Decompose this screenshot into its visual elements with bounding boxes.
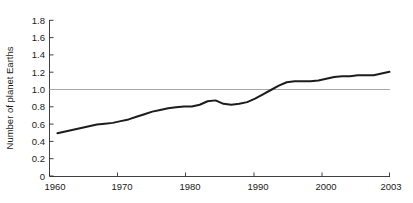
y-tick-label: 0 bbox=[40, 171, 45, 182]
y-tick-label: 1.8 bbox=[32, 15, 45, 26]
x-axis-tick-labels: 1960 1970 1980 1990 2000 2003 bbox=[44, 181, 401, 192]
y-tick-label: 1.2 bbox=[32, 67, 45, 78]
x-tick-label: 1980 bbox=[179, 181, 200, 192]
y-tick-label: 1.0 bbox=[32, 84, 45, 95]
x-tick-label: 2000 bbox=[315, 181, 336, 192]
x-tick-label: 1960 bbox=[44, 181, 65, 192]
x-tick-label: 2003 bbox=[380, 181, 401, 192]
y-tick-label: 0.4 bbox=[32, 136, 45, 147]
chart-container: 0 0.2 0.4 0.6 0.8 1.0 1.2 1.4 1.6 1.8 19… bbox=[0, 0, 413, 203]
y-axis-title: Number of planet Earths bbox=[4, 46, 15, 149]
x-tick-label: 1990 bbox=[247, 181, 268, 192]
y-axis-ticks bbox=[50, 20, 54, 176]
y-tick-label: 0.2 bbox=[32, 153, 45, 164]
y-tick-label: 1.6 bbox=[32, 32, 45, 43]
x-tick-label: 1970 bbox=[111, 181, 132, 192]
footprint-series-line bbox=[57, 72, 389, 133]
x-axis-ticks bbox=[50, 173, 390, 177]
ecological-footprint-line-chart: 0 0.2 0.4 0.6 0.8 1.0 1.2 1.4 1.6 1.8 19… bbox=[0, 0, 413, 203]
y-tick-label: 0.6 bbox=[32, 119, 45, 130]
y-tick-label: 1.4 bbox=[32, 49, 45, 60]
y-tick-label: 0.8 bbox=[32, 101, 45, 112]
y-axis-tick-labels: 0 0.2 0.4 0.6 0.8 1.0 1.2 1.4 1.6 1.8 bbox=[32, 15, 45, 182]
